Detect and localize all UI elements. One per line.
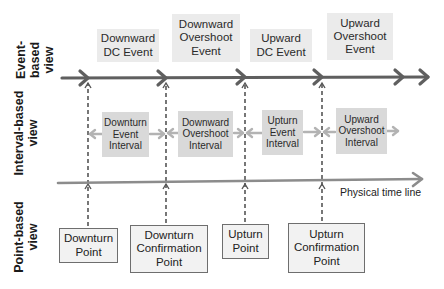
box-line: Overshoot: [338, 125, 384, 137]
box-line: Upward: [338, 114, 384, 126]
box-line: Downturn: [104, 117, 147, 129]
box-line: Downward: [179, 18, 233, 31]
box-line: Overshoot: [179, 31, 233, 44]
box-line: Upward: [333, 17, 386, 30]
box-line: Interval: [266, 138, 299, 150]
box-line: Point: [294, 255, 359, 268]
box-line: Downturn: [136, 229, 201, 242]
event-box-upward-dc: Upward DC Event: [250, 29, 312, 62]
point-box-downturn-confirmation: Downturn Confirmation Point: [130, 225, 208, 273]
point-box-upturn: Upturn Point: [222, 224, 269, 259]
box-line: DC Event: [101, 46, 155, 59]
box-line: Downward: [101, 32, 155, 45]
box-line: Point: [64, 246, 113, 259]
event-box-upward-overshoot: Upward Overshoot Event: [327, 13, 393, 60]
box-line: Interval: [182, 140, 229, 152]
box-line: Interval: [104, 140, 147, 152]
label-line: Point-based: [13, 197, 27, 277]
point-box-downturn: Downturn Point: [59, 228, 118, 263]
box-line: Event: [266, 127, 299, 139]
box-line: Downward: [182, 117, 229, 129]
physical-timeline-arrow: [58, 173, 422, 186]
interval-box-upward-overshoot: Upward Overshoot Interval: [336, 108, 387, 154]
box-line: Overshoot: [182, 128, 229, 140]
interval-box-downward-overshoot: Downward Overshoot Interval: [178, 111, 233, 157]
physical-time-line-label: Physical time line: [340, 186, 421, 198]
interval-box-downturn-event: Downturn Event Interval: [102, 112, 149, 157]
event-box-downward-dc: Downward DC Event: [97, 29, 159, 62]
box-line: Point: [228, 242, 263, 255]
label-line: view: [27, 83, 41, 183]
box-line: Confirmation: [136, 242, 201, 255]
interval-box-upturn-event: Upturn Event Interval: [262, 110, 303, 155]
interval-based-view-label: Interval-based view: [13, 83, 43, 183]
label-line: Interval-based: [13, 83, 27, 183]
box-line: Upturn: [294, 228, 359, 241]
box-line: Interval: [338, 137, 384, 149]
box-line: Event: [104, 129, 147, 141]
point-box-upturn-confirmation: Upturn Confirmation Point: [288, 223, 365, 273]
box-line: Point: [136, 256, 201, 269]
box-line: Confirmation: [294, 241, 359, 254]
box-line: Event: [179, 45, 233, 58]
box-line: DC Event: [256, 46, 305, 59]
event-box-downward-overshoot: Downward Overshoot Event: [172, 14, 240, 62]
box-line: Upturn: [228, 228, 263, 241]
label-line: view: [43, 21, 57, 99]
box-line: Upturn: [266, 115, 299, 127]
box-line: Upward: [256, 32, 305, 45]
label-line: view: [27, 197, 41, 277]
box-line: Event: [333, 43, 386, 56]
box-line: Downturn: [64, 232, 113, 245]
point-based-view-label: Point-based view: [13, 197, 43, 277]
box-line: Overshoot: [333, 30, 386, 43]
